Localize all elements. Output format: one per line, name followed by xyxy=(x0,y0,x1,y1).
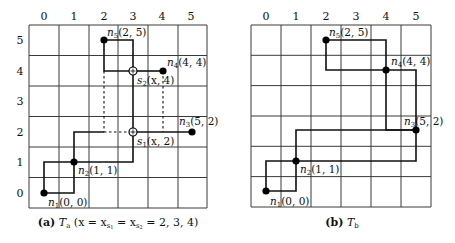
node-n1-b xyxy=(262,187,269,194)
node-label-s1: s1(x, 2) xyxy=(137,135,174,149)
y-axis-labels-a: 0 1 2 3 4 5 xyxy=(17,34,24,200)
node-n4-b xyxy=(382,66,389,73)
node-n1-a xyxy=(40,189,47,196)
x-label: 3 xyxy=(353,10,360,23)
x-label: 1 xyxy=(71,10,78,23)
node-label-n1: n1(0, 0) xyxy=(48,196,87,210)
node-label-n2: n2(1, 1) xyxy=(78,164,117,178)
x-label: 3 xyxy=(130,10,137,23)
y-label: 3 xyxy=(17,95,24,108)
x-label: 4 xyxy=(383,10,390,23)
node-label-n3: n3(5, 2) xyxy=(179,115,218,129)
y-label: 5 xyxy=(17,34,24,47)
y-label: 4 xyxy=(17,65,24,78)
y-label: 0 xyxy=(17,187,24,200)
node-label-s2: s2(x, 4) xyxy=(137,74,174,88)
caption-b: (b) Tb xyxy=(325,216,359,230)
x-axis-labels-a: 0 1 2 3 4 5 xyxy=(41,10,195,23)
node-label-n3: n3(5, 2) xyxy=(404,115,443,129)
node-label-n4: n4(4, 4) xyxy=(167,56,206,70)
x-label: 2 xyxy=(101,10,108,23)
x-label: 5 xyxy=(188,10,195,23)
node-label-n5: n5(2, 5) xyxy=(107,26,146,40)
x-label: 0 xyxy=(41,10,48,23)
caption-a: (a) Ta (x = xs1 = xs2 = 2, 3, 4) xyxy=(38,216,198,230)
node-label-n5: n5(2, 5) xyxy=(329,26,368,40)
x-label: 1 xyxy=(293,10,300,23)
y-label: 2 xyxy=(17,126,24,139)
node-n2-a xyxy=(70,158,77,165)
steiner-s1-icon xyxy=(129,128,137,136)
x-axis-labels-b: 0 1 2 3 4 5 xyxy=(263,10,420,23)
x-label: 5 xyxy=(413,10,420,23)
node-label-n1: n1(0, 0) xyxy=(270,195,309,209)
y-label: 1 xyxy=(17,156,24,169)
figure-b: 0 1 2 3 4 5 xyxy=(251,10,443,230)
node-n2-b xyxy=(292,157,299,164)
node-label-n4: n4(4, 4) xyxy=(391,55,430,69)
x-label: 0 xyxy=(263,10,270,23)
figure-canvas: 0 1 2 3 4 5 0 1 2 3 4 5 xyxy=(0,0,455,243)
figure-a: 0 1 2 3 4 5 0 1 2 3 4 5 xyxy=(17,10,219,230)
x-label: 4 xyxy=(159,10,166,23)
node-n3-a xyxy=(188,128,195,135)
x-label: 2 xyxy=(323,10,330,23)
steiner-s2-icon xyxy=(129,67,137,75)
node-label-n2: n2(1, 1) xyxy=(300,163,339,177)
